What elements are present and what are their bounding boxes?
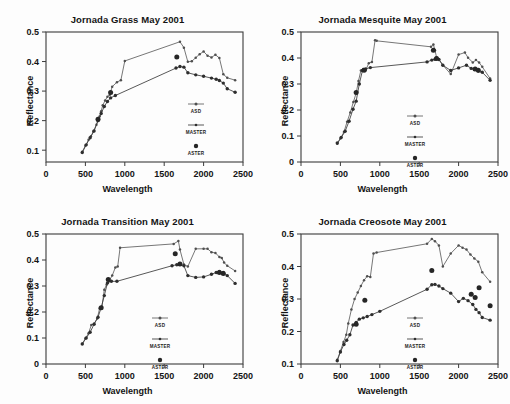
data-point-master: [174, 66, 177, 69]
x-tick-label: 2500: [233, 371, 253, 381]
data-point-asd: [191, 60, 194, 63]
data-point-master: [370, 313, 373, 316]
panel-grid: Jornada Grass May 2001 Reflectance 0.10.…: [0, 0, 510, 404]
data-point-master: [92, 323, 95, 326]
data-point-asd: [349, 111, 352, 114]
data-point-asd: [477, 260, 480, 263]
legend-label-master: MASTER: [405, 142, 426, 147]
data-point-asd: [457, 244, 460, 247]
data-point-aster: [354, 90, 359, 95]
data-point-master: [365, 315, 368, 318]
y-tick-label: 0.3: [26, 281, 39, 291]
data-point-asd: [369, 276, 372, 279]
data-point-asd: [430, 46, 433, 49]
legend-label-aster: ASTER: [407, 163, 424, 168]
y-tick-label: 0.1: [26, 333, 39, 343]
data-point-master: [342, 343, 345, 346]
series-line-master: [337, 59, 490, 143]
data-point-asd: [226, 264, 229, 267]
data-point-asd: [114, 266, 117, 269]
data-point-master: [437, 284, 440, 287]
data-point-asd: [368, 62, 371, 64]
data-point-asd: [481, 66, 484, 69]
data-point-master: [103, 294, 106, 297]
data-point-asd: [353, 298, 356, 301]
data-point-asd: [438, 244, 441, 247]
data-point-asd: [187, 61, 190, 64]
y-tick-label: 0.2: [26, 116, 39, 126]
panel-grass: Jornada Grass May 2001 Reflectance 0.10.…: [0, 0, 255, 202]
x-axis-label-creosote: Wavelength: [255, 386, 510, 396]
data-point-master: [462, 297, 465, 300]
y-tick-label: 0.5: [281, 27, 294, 37]
data-point-aster: [177, 261, 182, 266]
data-point-asd: [187, 265, 190, 268]
data-point-master: [115, 280, 118, 283]
data-point-master: [226, 87, 229, 90]
plot-frame: [46, 32, 243, 162]
data-point-master: [441, 287, 444, 290]
x-tick-label: 2500: [488, 371, 508, 381]
data-point-master: [178, 65, 181, 68]
data-point-asd: [465, 248, 468, 251]
data-point-asd: [372, 252, 375, 255]
y-tick-label: 0.3: [281, 79, 294, 89]
data-point-master: [114, 94, 117, 97]
data-point-asd: [202, 50, 205, 53]
data-point-master: [339, 136, 342, 139]
y-tick-label: 0.1: [281, 359, 294, 369]
data-point-asd: [350, 308, 353, 311]
x-tick-label: 1500: [409, 371, 429, 381]
data-point-aster: [221, 271, 226, 276]
data-point-master: [336, 359, 339, 362]
y-tick-label: 0.4: [281, 262, 294, 272]
x-tick-label: 1500: [409, 169, 429, 179]
data-point-asd: [90, 324, 93, 327]
x-tick-label: 500: [78, 371, 93, 381]
legend-marker-aster: [194, 144, 198, 148]
data-point-master: [233, 91, 236, 94]
data-point-asd: [222, 73, 225, 76]
data-point-master: [88, 136, 91, 139]
data-point-master: [362, 316, 365, 319]
data-point-master: [369, 66, 372, 69]
data-point-master: [449, 69, 452, 72]
data-point-master: [430, 283, 433, 286]
data-point-asd: [214, 54, 217, 57]
x-tick-label: 1000: [115, 169, 135, 179]
data-point-master: [103, 105, 106, 108]
data-point-asd: [489, 281, 492, 284]
plot-transition: 00.10.20.30.40.505001000150020002500ASDM…: [0, 202, 255, 404]
data-point-asd: [234, 79, 237, 82]
data-point-master: [84, 143, 87, 146]
data-point-master: [430, 58, 433, 61]
data-point-asd: [116, 265, 119, 268]
data-point-master: [210, 273, 213, 276]
panel-transition: Jornada Transition May 2001 Reflectance …: [0, 202, 255, 404]
data-point-master: [449, 291, 452, 294]
data-point-asd: [177, 240, 180, 243]
y-tick-label: 0: [289, 157, 294, 167]
data-point-master: [457, 66, 460, 69]
data-point-asd: [461, 246, 464, 249]
y-tick-label: 0.1: [26, 146, 39, 156]
data-point-asd: [179, 248, 182, 251]
legend-marker-dot-master: [159, 338, 162, 341]
data-point-asd: [434, 240, 437, 243]
data-point-master: [358, 82, 361, 85]
data-point-master: [470, 67, 473, 70]
data-point-asd: [218, 256, 221, 259]
data-point-aster: [106, 277, 111, 282]
data-point-asd: [172, 243, 175, 246]
legend-marker-dot-asd: [159, 317, 162, 320]
data-point-aster: [476, 68, 481, 73]
data-point-asd: [202, 248, 205, 251]
data-point-asd: [347, 322, 350, 325]
data-point-asd: [345, 334, 348, 337]
data-point-aster: [488, 303, 493, 308]
x-tick-label: 2500: [488, 169, 508, 179]
data-point-aster: [362, 298, 367, 303]
data-point-master: [358, 317, 361, 320]
x-tick-label: 0: [43, 371, 48, 381]
data-point-asd: [431, 238, 434, 241]
